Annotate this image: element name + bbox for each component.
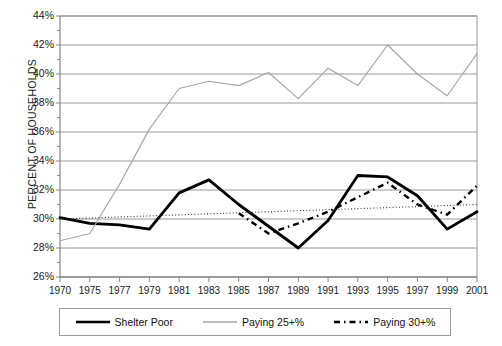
legend-swatch-paying-25 <box>202 317 238 327</box>
x-tick-label: 2001 <box>457 285 497 296</box>
y-tick-label: 34% <box>8 154 54 166</box>
legend-item-paying-30[interactable]: Paying 30+% <box>333 316 435 328</box>
series-line-trend <box>60 205 477 220</box>
y-tick-label: 38% <box>8 96 54 108</box>
legend-label-paying-30: Paying 30+% <box>373 316 435 328</box>
legend-swatch-paying-30 <box>333 317 369 327</box>
legend-label-shelter-poor: Shelter Poor <box>115 316 173 328</box>
legend-item-shelter-poor[interactable]: Shelter Poor <box>75 316 173 328</box>
y-tick-label: 28% <box>8 241 54 253</box>
legend-label-paying-25: Paying 25+% <box>242 316 304 328</box>
legend-swatch-shelter-poor <box>75 317 111 327</box>
y-tick-label: 30% <box>8 212 54 224</box>
y-tick-label: 42% <box>8 38 54 50</box>
y-tick-label: 26% <box>8 270 54 282</box>
legend-item-paying-25[interactable]: Paying 25+% <box>202 316 304 328</box>
y-tick-label: 32% <box>8 183 54 195</box>
chart-container: PERCENT OF HOUSEHOLDS Shelter Poor Payin… <box>0 0 502 346</box>
y-tick-label: 44% <box>8 9 54 21</box>
chart-legend: Shelter Poor Paying 25+% Paying 30+% <box>59 308 451 336</box>
y-tick-label: 36% <box>8 125 54 137</box>
y-tick-label: 40% <box>8 67 54 79</box>
